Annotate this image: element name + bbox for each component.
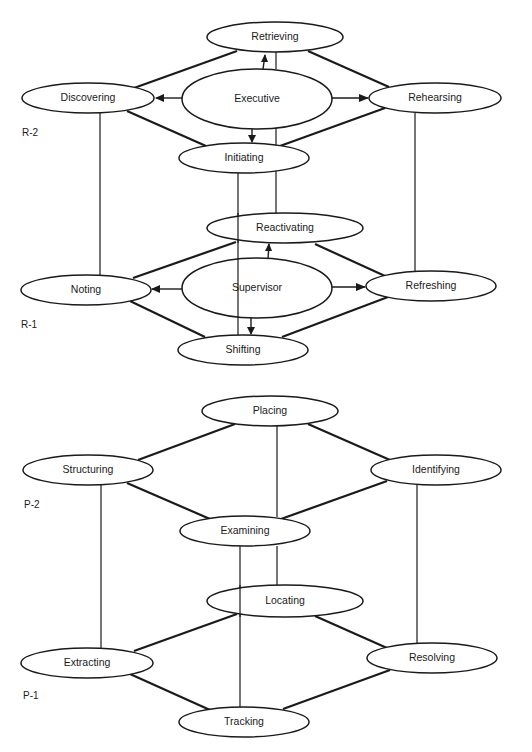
node-label: Discovering: [61, 91, 116, 103]
node-retrieving: Retrieving: [207, 22, 343, 52]
node-label: Shifting: [225, 343, 260, 355]
node-extracting: Extracting: [21, 648, 153, 678]
node-identifying: Identifying: [371, 455, 501, 485]
node-label: Executive: [234, 92, 280, 104]
node-examining: Examining: [180, 516, 310, 546]
level-label-r1: R-1: [21, 319, 38, 330]
level-label-p2: P-2: [24, 499, 40, 510]
edge-identifying-examining: [281, 481, 387, 519]
node-rehearsing: Rehearsing: [369, 83, 501, 113]
node-locating: Locating: [207, 585, 363, 617]
node-label: Supervisor: [232, 281, 283, 293]
level-label-p1: P-1: [23, 690, 39, 701]
node-label: Examining: [220, 524, 269, 536]
node-label: Structuring: [63, 463, 114, 475]
edge-retrieving-rehearsing: [308, 51, 389, 87]
node-placing: Placing: [202, 396, 338, 426]
node-label: Tracking: [224, 715, 264, 727]
edge-extracting-tracking: [130, 674, 210, 710]
edge-structuring-examining: [127, 483, 210, 519]
edge-noting-shifting: [130, 301, 205, 337]
node-label: Placing: [253, 404, 288, 416]
node-reactivating: Reactivating: [207, 213, 363, 243]
node-initiating: Initiating: [179, 143, 309, 173]
edge-reactivating-refreshing: [315, 244, 385, 276]
node-structuring: Structuring: [23, 455, 153, 485]
retrieval-diagram: Retrieving Discovering Executive Rehears…: [21, 22, 501, 365]
edge-locating-resolving: [315, 616, 387, 648]
node-label: Extracting: [64, 656, 111, 668]
edge-placing-identifying: [308, 424, 390, 460]
node-label: Noting: [71, 283, 102, 295]
node-label: Refreshing: [406, 279, 457, 291]
node-refreshing: Refreshing: [366, 271, 496, 301]
diagram-canvas: Retrieving Discovering Executive Rehears…: [0, 0, 532, 752]
perception-diagram: Placing Structuring Identifying Examinin…: [21, 396, 501, 737]
node-shifting: Shifting: [178, 335, 308, 365]
arrowhead-right-icon: [356, 283, 366, 291]
node-label: Retrieving: [251, 30, 298, 42]
node-label: Reactivating: [256, 221, 314, 233]
level-label-r2: R-2: [22, 127, 39, 138]
edge-locating-extracting: [134, 614, 237, 651]
arrowhead-right-icon: [359, 94, 369, 102]
node-discovering: Discovering: [22, 83, 154, 113]
node-noting: Noting: [21, 275, 151, 305]
arrowhead-left-icon: [151, 285, 160, 293]
node-executive: Executive: [182, 69, 332, 129]
node-label: Locating: [265, 594, 305, 606]
arrowhead-up-icon: [261, 54, 268, 62]
node-supervisor: Supervisor: [182, 258, 332, 318]
arrowhead-left-icon: [155, 94, 164, 102]
node-label: Resolving: [409, 651, 455, 663]
arrowhead-down-icon: [247, 327, 255, 335]
arrowhead-up-icon: [265, 243, 272, 251]
node-label: Identifying: [412, 463, 460, 475]
edge-placing-structuring: [138, 424, 235, 460]
node-label: Rehearsing: [408, 91, 462, 103]
node-tracking: Tracking: [179, 707, 309, 737]
node-label: Initiating: [224, 151, 263, 163]
arrowhead-down-icon: [248, 135, 256, 143]
node-resolving: Resolving: [367, 643, 497, 673]
edge-resolving-tracking: [283, 670, 390, 709]
